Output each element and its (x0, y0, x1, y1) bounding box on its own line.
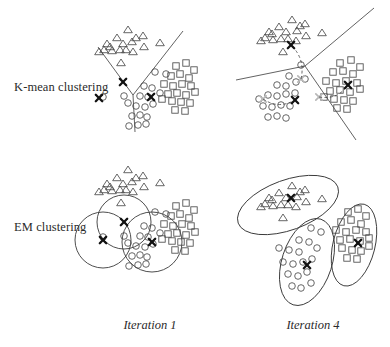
data-point-triangle (113, 34, 122, 41)
gaussian-component-1 (230, 163, 347, 246)
data-point-circle (289, 283, 296, 290)
data-point-square (343, 229, 349, 235)
data-point-square (337, 237, 343, 243)
data-point-circle (135, 262, 142, 269)
data-point-circle (149, 85, 156, 92)
data-point-circle (283, 115, 290, 122)
data-point-triangle (124, 166, 133, 173)
data-point-circle (157, 90, 164, 97)
data-point-square (354, 80, 360, 86)
data-point-circle (286, 247, 293, 254)
data-point-square (183, 60, 189, 66)
data-point-square (183, 232, 189, 238)
data-point-square (183, 200, 189, 206)
data-point-square (177, 71, 183, 77)
data-point-triangle (139, 32, 148, 39)
data-point-square (323, 78, 329, 84)
data-point-square (349, 247, 355, 253)
data-point-square (192, 89, 198, 95)
data-point-square (337, 60, 343, 66)
data-point-square (179, 81, 185, 87)
data-point-triangle (318, 195, 327, 202)
data-point-square (161, 81, 167, 87)
data-point-square (188, 223, 194, 229)
panel-kmeans-iter1 (95, 26, 199, 132)
data-point-circle (157, 230, 164, 237)
data-point-square (353, 227, 359, 233)
data-point-square (165, 231, 171, 237)
data-point-square (182, 248, 188, 254)
data-point-square (178, 99, 184, 105)
data-point-circle (125, 240, 132, 247)
data-point-circle (143, 261, 150, 268)
data-point-square (159, 236, 165, 242)
data-point-triangle (124, 26, 133, 33)
data-point-square (358, 221, 364, 227)
column-caption-iteration-1: Iteration 1 (105, 318, 195, 333)
data-point-triangle (113, 174, 122, 181)
data-point-circle (318, 229, 325, 236)
data-point-circle (141, 83, 148, 90)
data-point-square (344, 106, 350, 112)
partition-line-2 (236, 66, 305, 80)
data-point-square (169, 238, 175, 244)
data-point-circle (144, 254, 151, 261)
data-point-square (169, 98, 175, 104)
data-point-circle (283, 91, 290, 98)
data-point-circle (125, 100, 132, 107)
data-point-square (339, 245, 345, 251)
data-point-square (186, 215, 192, 221)
data-point-square (192, 229, 198, 235)
data-point-triangle (279, 214, 288, 221)
data-point-triangle (156, 179, 165, 186)
data-point-square (191, 207, 197, 213)
data-point-square (186, 75, 192, 81)
data-point-triangle (128, 178, 137, 185)
data-point-circle (126, 123, 133, 130)
data-point-triangle (139, 172, 148, 179)
data-point-circle (141, 223, 148, 230)
data-point-triangle (288, 182, 297, 189)
data-point-square (347, 89, 353, 95)
data-point-square (191, 67, 197, 73)
data-point-square (340, 68, 346, 74)
data-point-triangle (140, 183, 149, 190)
data-point-circle (137, 233, 144, 240)
column-caption-iteration-4: Iteration 4 (268, 318, 358, 333)
data-point-square (173, 63, 179, 69)
data-point-circle (285, 271, 292, 278)
plot-area (0, 0, 390, 347)
data-point-circle (292, 90, 299, 97)
data-point-square (188, 83, 194, 89)
data-point-circle (314, 245, 321, 252)
data-point-triangle (318, 29, 327, 36)
data-point-triangle (128, 38, 137, 45)
panel-em-iter1 (75, 166, 198, 272)
clustering-plot-svg (0, 0, 390, 347)
data-point-square (182, 108, 188, 114)
data-point-triangle (156, 39, 165, 46)
data-point-circle (163, 71, 170, 78)
data-point-square (327, 88, 333, 94)
data-point-triangle (108, 47, 117, 54)
data-point-circle (135, 122, 142, 129)
data-point-square (179, 221, 185, 227)
data-point-circle (296, 249, 303, 256)
data-point-square (178, 239, 184, 245)
data-point-square (159, 96, 165, 102)
data-point-triangle (302, 32, 311, 39)
data-point-square (357, 86, 363, 92)
data-point-circle (296, 237, 303, 244)
data-point-circle (265, 114, 272, 121)
data-point-circle (274, 82, 281, 89)
data-point-circle (144, 114, 151, 121)
data-point-square (350, 71, 356, 77)
clustering-comparison-figure: K-mean clustering EM clustering Iteratio… (0, 0, 390, 347)
data-point-circle (274, 113, 281, 120)
data-point-triangle (302, 198, 311, 205)
data-point-square (357, 64, 363, 70)
data-point-square (363, 229, 369, 235)
data-point-circle (286, 73, 293, 80)
data-point-circle (278, 102, 285, 109)
data-point-circle (308, 225, 315, 232)
